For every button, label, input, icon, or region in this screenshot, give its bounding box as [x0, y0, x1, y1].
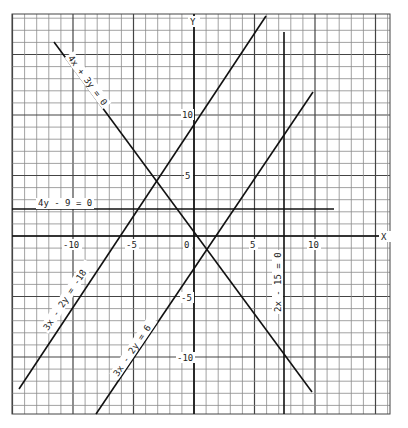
svg-text:0: 0 — [184, 240, 189, 250]
x-axis-label: X — [379, 231, 391, 242]
label-4x-plus-3y-eq-0: 4x + 3y = 0 — [65, 51, 112, 109]
origin-label: 0 — [183, 239, 192, 250]
svg-text:5: 5 — [250, 240, 255, 250]
axes — [12, 14, 390, 414]
svg-text:Y: Y — [190, 17, 196, 27]
svg-text:-5: -5 — [126, 240, 137, 250]
svg-text:5: 5 — [185, 171, 190, 181]
y-axis-label: Y — [188, 16, 200, 27]
graph-paper-plot: Y X 0 -10 -5 5 10 10 5 -5 -10 4x + 3y = … — [0, 0, 408, 428]
svg-text:10: 10 — [308, 240, 319, 250]
svg-text:2x - 15 = 0: 2x - 15 = 0 — [273, 252, 283, 312]
label-4y-minus-9-eq-0: 4y - 9 = 0 — [36, 198, 94, 209]
svg-text:10: 10 — [182, 110, 193, 120]
grid-border — [12, 14, 390, 414]
svg-text:3x - 2y = -18: 3x - 2y = -18 — [41, 268, 88, 332]
svg-text:-10: -10 — [177, 353, 193, 363]
equation-lines — [12, 16, 334, 414]
svg-text:4y - 9 = 0: 4y - 9 = 0 — [38, 198, 92, 208]
svg-text:4x + 3y = 0: 4x + 3y = 0 — [66, 53, 109, 107]
grid — [12, 14, 390, 414]
svg-text:-5: -5 — [181, 293, 192, 303]
svg-text:-10: -10 — [63, 240, 79, 250]
svg-text:3x - 2y = 6: 3x - 2y = 6 — [111, 323, 153, 378]
svg-text:X: X — [381, 232, 387, 242]
label-2x-minus-15-eq-0: 2x - 15 = 0 — [272, 250, 283, 314]
